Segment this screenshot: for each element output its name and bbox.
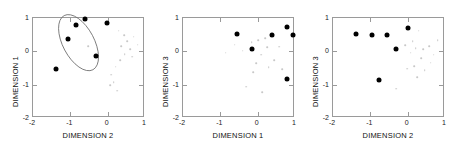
y-tick-label: -2 <box>23 114 29 121</box>
y-axis-label-1: DIMENSION 1 <box>11 56 20 107</box>
y-tick-label: -1 <box>23 80 29 87</box>
data-point-background <box>120 59 122 61</box>
data-point-background <box>261 91 263 93</box>
plot-svg-1 <box>33 18 145 118</box>
y-tick-mark <box>289 51 293 52</box>
panel-3: DIMENSION 2 DIMENSION 3 -2-101-2-101 <box>300 0 452 158</box>
x-tick-label: 1 <box>442 119 446 126</box>
panel-1: DIMENSION 2 DIMENSION 1 -2-101-2-101 <box>0 0 152 158</box>
data-point-background <box>252 71 254 73</box>
x-tick-label: 0 <box>405 119 409 126</box>
x-tick-mark <box>258 112 259 116</box>
data-point-background <box>242 50 244 52</box>
x-tick-mark <box>258 18 259 22</box>
y-tick-mark <box>333 51 337 52</box>
data-point-background <box>129 49 131 51</box>
data-point-background <box>124 53 126 55</box>
data-point-background <box>234 44 236 46</box>
data-point-selected <box>406 26 411 31</box>
y-tick-label: 1 <box>175 14 179 21</box>
data-point-background <box>255 63 257 65</box>
data-point-background <box>420 57 422 59</box>
data-point-selected <box>104 21 109 26</box>
plot-area-1 <box>32 17 144 117</box>
y-tick-mark <box>33 51 37 52</box>
y-tick-label: 0 <box>325 47 329 54</box>
x-tick-mark <box>408 112 409 116</box>
y-axis-label-3: DIMENSION 3 <box>311 56 320 107</box>
x-tick-label: -1 <box>216 119 222 126</box>
data-point-selected <box>291 32 296 37</box>
data-point-selected <box>284 25 289 30</box>
panel-2: DIMENSION 1 DIMENSION 3 -2-101-2-101 <box>150 0 302 158</box>
data-point-selected <box>66 36 71 41</box>
y-tick-label: -1 <box>323 80 329 87</box>
y-tick-mark <box>289 85 293 86</box>
data-point-background <box>87 45 89 47</box>
y-tick-mark <box>139 85 143 86</box>
data-point-background <box>414 65 416 67</box>
data-point-background <box>433 54 435 56</box>
data-point-background <box>418 30 420 32</box>
x-tick-label: -2 <box>29 119 35 126</box>
data-point-background <box>123 35 125 37</box>
data-point-background <box>424 69 426 71</box>
data-point-selected <box>393 46 398 51</box>
data-point-selected <box>54 66 59 71</box>
data-point-background <box>417 77 419 79</box>
data-point-selected <box>269 33 274 38</box>
x-tick-label: 1 <box>292 119 296 126</box>
data-point-background <box>405 45 407 47</box>
data-point-background <box>437 39 439 41</box>
y-tick-mark <box>439 85 443 86</box>
data-point-background <box>264 37 266 39</box>
y-tick-label: -1 <box>173 80 179 87</box>
plot-area-3 <box>332 17 444 117</box>
data-point-background <box>111 74 113 76</box>
plot-area-2 <box>182 17 294 117</box>
data-point-selected <box>385 32 390 37</box>
data-point-selected <box>250 46 255 51</box>
cluster-ellipse <box>50 8 106 77</box>
data-point-background <box>258 39 260 41</box>
data-point-background <box>113 81 115 83</box>
x-tick-mark <box>70 112 71 116</box>
y-tick-label: 0 <box>25 47 29 54</box>
x-tick-label: -1 <box>366 119 372 126</box>
data-point-background <box>261 54 263 56</box>
data-point-background <box>126 41 128 43</box>
y-tick-mark <box>333 85 337 86</box>
data-point-background <box>225 52 227 54</box>
data-point-background <box>406 68 408 70</box>
data-point-selected <box>73 22 78 27</box>
x-axis-label-1: DIMENSION 2 <box>32 131 144 140</box>
y-tick-label: -2 <box>323 114 329 121</box>
x-tick-label: 0 <box>255 119 259 126</box>
data-point-background <box>137 44 139 46</box>
y-tick-mark <box>183 51 187 52</box>
y-tick-mark <box>439 51 443 52</box>
y-tick-label: 1 <box>325 14 329 21</box>
x-tick-mark <box>408 18 409 22</box>
data-point-selected <box>82 16 87 21</box>
data-point-background <box>429 45 431 47</box>
data-point-background <box>410 52 412 54</box>
x-tick-label: 1 <box>142 119 146 126</box>
data-point-selected <box>235 32 240 37</box>
data-point-background <box>279 46 281 48</box>
data-point-background <box>118 30 120 32</box>
data-point-background <box>412 41 414 43</box>
x-tick-mark <box>220 112 221 116</box>
x-tick-label: -2 <box>179 119 185 126</box>
y-axis-label-2: DIMENSION 3 <box>161 56 170 107</box>
x-tick-mark <box>220 18 221 22</box>
x-tick-mark <box>108 112 109 116</box>
x-axis-label-3: DIMENSION 2 <box>332 131 444 140</box>
data-point-background <box>396 88 398 90</box>
data-point-background <box>251 41 253 43</box>
data-point-background <box>415 47 417 49</box>
data-point-background <box>132 56 134 58</box>
y-tick-mark <box>183 85 187 86</box>
x-tick-label: -1 <box>66 119 72 126</box>
data-point-background <box>430 62 432 64</box>
